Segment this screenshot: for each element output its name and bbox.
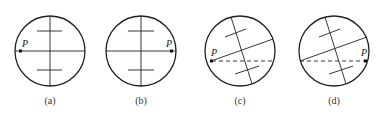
horizontal-hair bbox=[300, 37, 367, 61]
caption-b: (b) bbox=[135, 95, 147, 107]
point-p-marker bbox=[210, 60, 213, 63]
point-p-marker bbox=[364, 60, 367, 63]
point-p-marker bbox=[19, 50, 22, 53]
point-p-label: P bbox=[210, 47, 217, 58]
reticle-figure: P (a) P (b) P (c) P (d bbox=[0, 0, 386, 118]
point-p-label: P bbox=[21, 38, 28, 49]
caption-c: (c) bbox=[234, 95, 245, 107]
panel-d: P (d) bbox=[299, 16, 369, 107]
caption-d: (d) bbox=[328, 95, 340, 107]
reticle-circle bbox=[299, 16, 369, 86]
panel-c: P (c) bbox=[205, 16, 275, 107]
panel-a: P (a) bbox=[15, 16, 85, 107]
point-p-marker bbox=[170, 50, 173, 53]
point-p-label: P bbox=[165, 38, 172, 49]
caption-a: (a) bbox=[44, 95, 55, 107]
point-p-label: P bbox=[360, 47, 367, 58]
panel-b: P (b) bbox=[106, 16, 176, 107]
horizontal-hair bbox=[211, 39, 273, 61]
